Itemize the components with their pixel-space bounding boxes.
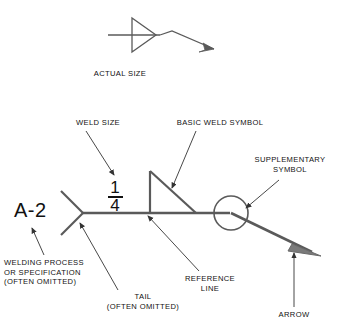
tail-specification-text: A-2	[14, 199, 47, 222]
tail-upper-stroke	[61, 191, 83, 213]
weld-size-numerator: 1	[100, 180, 130, 196]
tail-lower-stroke	[61, 213, 83, 235]
weld-size-fraction: 1 4	[100, 180, 130, 214]
callout-weld-size	[86, 131, 114, 175]
leader-arrowhead	[288, 244, 321, 256]
callout-basic-weld-symbol	[172, 131, 196, 188]
callout-reference-line	[148, 216, 199, 271]
weld-size-denominator: 4	[100, 198, 130, 214]
leader-line	[231, 213, 312, 252]
label-reference-line: REFERENCE LINE	[168, 274, 252, 293]
label-actual-size: ACTUAL SIZE	[0, 69, 240, 79]
label-basic-weld-symbol: BASIC WELD SYMBOL	[140, 118, 300, 128]
actual-size-symbol	[108, 18, 214, 52]
actual-size-arrowhead	[199, 43, 214, 52]
welding-symbol-diagram: ACTUAL SIZE WELD SIZE BASIC WELD SYMBOL …	[0, 0, 340, 331]
basic-weld-symbol-hypotenuse	[150, 171, 196, 213]
label-tail: TAIL (OFTEN OMITTED)	[88, 292, 198, 311]
callout-welding-process	[32, 228, 44, 255]
label-welding-process-or-specification: WELDING PROCESS OR SPECIFICATION (OFTEN …	[4, 258, 114, 287]
label-supplementary-symbol: SUPPLEMENTARY SYMBOL	[240, 155, 340, 174]
callout-supplementary-symbol	[246, 180, 279, 208]
label-arrow: ARROW	[262, 310, 326, 320]
